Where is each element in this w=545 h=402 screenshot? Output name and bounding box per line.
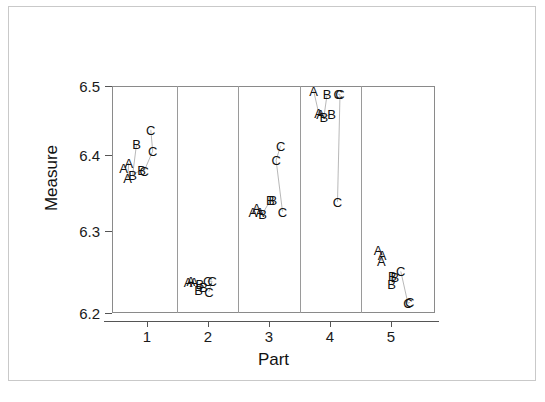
data-point-c-part2: C xyxy=(204,285,213,298)
x-tick-mark-5 xyxy=(391,321,392,327)
measurement-by-part-chart: Measure 6.5 6.4 6.3 6.2 1 2 3 4 5 Part A… xyxy=(0,0,545,402)
data-point-a-part5: A xyxy=(377,254,386,267)
data-point-b-part3: B xyxy=(258,207,267,220)
data-point-c-part3: C xyxy=(278,205,287,218)
x-tick-label-1: 1 xyxy=(132,329,162,344)
data-point-c-part4: C xyxy=(333,195,342,208)
x-axis-line xyxy=(104,321,439,322)
x-axis-title: Part xyxy=(112,350,435,370)
x-tick-label-5: 5 xyxy=(376,329,406,344)
panel-divider-3 xyxy=(300,86,301,313)
x-tick-mark-4 xyxy=(330,321,331,327)
data-point-a-part4: A xyxy=(309,84,318,97)
data-point-b-part3: B xyxy=(269,194,278,207)
data-point-c-part3: C xyxy=(271,154,280,167)
panel-divider-1 xyxy=(177,86,178,313)
data-point-b-part5: B xyxy=(387,277,396,290)
y-tick-mark-6-3 xyxy=(105,231,112,232)
data-point-b-part1: B xyxy=(132,138,141,151)
x-tick-mark-1 xyxy=(147,321,148,327)
data-point-c-part1: C xyxy=(148,145,157,158)
panel-divider-2 xyxy=(238,86,239,313)
y-tick-mark-6-5 xyxy=(105,86,112,87)
x-tick-label-4: 4 xyxy=(315,329,345,344)
y-tick-label-6-3: 6.3 xyxy=(0,224,100,239)
x-tick-label-3: 3 xyxy=(254,329,284,344)
x-tick-mark-2 xyxy=(208,321,209,327)
y-tick-label-6-5: 6.5 xyxy=(0,79,100,94)
y-tick-mark-6-2 xyxy=(105,313,112,314)
y-tick-label-6-4: 6.4 xyxy=(0,148,100,163)
screenshot-page: Measure 6.5 6.4 6.3 6.2 1 2 3 4 5 Part A… xyxy=(0,0,545,402)
data-point-c-part1: C xyxy=(146,123,155,136)
y-tick-mark-6-4 xyxy=(105,155,112,156)
data-point-c-part5: C xyxy=(405,296,414,309)
data-point-c-part3: C xyxy=(276,139,285,152)
panel-divider-4 xyxy=(361,86,362,313)
data-point-c-part1: C xyxy=(140,164,149,177)
y-axis-title: Measure xyxy=(42,118,62,238)
data-point-b-part4: B xyxy=(323,88,332,101)
x-tick-label-2: 2 xyxy=(193,329,223,344)
data-point-c-part5: C xyxy=(396,265,405,278)
x-tick-mark-3 xyxy=(269,321,270,327)
data-point-b-part4: B xyxy=(327,108,336,121)
data-point-b-part1: B xyxy=(128,168,137,181)
data-point-c-part4: C xyxy=(335,88,344,101)
y-tick-label-6-2: 6.2 xyxy=(0,306,100,321)
figure-caption xyxy=(8,392,536,402)
